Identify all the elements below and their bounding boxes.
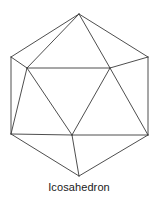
icosahedron-wireframe-diagram	[0, 0, 158, 198]
figure-caption-label: Icosahedron	[0, 181, 158, 194]
diagram-background	[0, 0, 158, 198]
icosahedron-figure: Icosahedron	[0, 0, 158, 198]
